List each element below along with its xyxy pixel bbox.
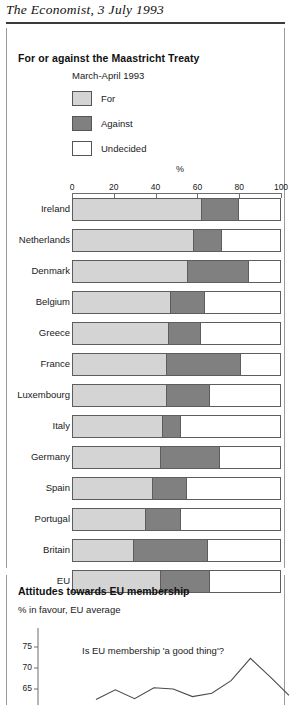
bar-segment-undecided xyxy=(181,509,280,530)
bar-track xyxy=(72,291,281,314)
bar-segment-undecided xyxy=(201,323,280,344)
bar-track xyxy=(72,539,281,562)
line-chart-y-tick-label: 65 xyxy=(8,683,32,693)
bar-segment-against xyxy=(166,354,241,375)
x-axis-tick-label: 60 xyxy=(193,182,202,192)
legend-label-for: For xyxy=(101,93,115,104)
bar-track xyxy=(72,322,281,345)
panel-title-attitudes: Attitudes towards EU membership xyxy=(18,585,190,597)
legend-period-label: March-April 1993 xyxy=(72,70,272,81)
bar-row: Britain xyxy=(0,537,291,568)
bar-segment-for xyxy=(73,354,166,375)
bar-segment-for xyxy=(73,509,145,530)
bar-category-label: Britain xyxy=(43,544,70,555)
panel-title-maastricht: For or against the Maastricht Treaty xyxy=(18,52,200,64)
bar-segment-undecided xyxy=(220,447,280,468)
bar-segment-for xyxy=(73,478,152,499)
bar-row: Denmark xyxy=(0,258,291,289)
bar-row: Greece xyxy=(0,320,291,351)
bar-segment-for xyxy=(73,230,193,251)
bar-segment-against xyxy=(201,199,238,220)
bar-segment-against xyxy=(193,230,222,251)
bar-row: Germany xyxy=(0,444,291,475)
bar-segment-against xyxy=(145,509,180,530)
bar-segment-undecided xyxy=(181,416,280,437)
bar-category-label: Italy xyxy=(53,420,70,431)
bar-row: Italy xyxy=(0,413,291,444)
bar-row: Ireland xyxy=(0,196,291,227)
bar-segment-undecided xyxy=(239,199,280,220)
bar-segment-for xyxy=(73,323,168,344)
bar-track xyxy=(72,229,281,252)
bar-segment-against xyxy=(187,261,249,282)
bar-segment-for xyxy=(73,292,170,313)
bar-track xyxy=(72,384,281,407)
bar-category-label: Denmark xyxy=(31,265,70,276)
bar-segment-undecided xyxy=(187,478,280,499)
line-chart-y-tick-label: 75 xyxy=(8,641,32,651)
header-rule xyxy=(6,22,285,24)
axis-unit-label: % xyxy=(176,164,184,174)
bar-category-label: France xyxy=(40,358,70,369)
x-axis-line xyxy=(72,193,281,194)
bar-track xyxy=(72,446,281,469)
bar-segment-against xyxy=(133,540,208,561)
bar-track xyxy=(72,260,281,283)
bar-category-label: Germany xyxy=(31,451,70,462)
bar-category-label: Spain xyxy=(46,482,70,493)
bar-track xyxy=(72,353,281,376)
legend-item-against: Against xyxy=(72,111,272,136)
legend-item-undecided: Undecided xyxy=(72,136,272,161)
bar-track xyxy=(72,198,281,221)
panel-subtitle-attitudes: % in favour, EU average xyxy=(18,604,120,615)
bar-segment-for xyxy=(73,447,160,468)
bar-segment-against xyxy=(162,416,181,437)
legend-label-undecided: Undecided xyxy=(101,143,146,154)
legend-item-for: For xyxy=(72,86,272,111)
bar-category-label: Luxembourg xyxy=(17,389,70,400)
chart-legend: March-April 1993 For Against Undecided xyxy=(72,70,272,161)
bar-segment-undecided xyxy=(210,385,280,406)
bar-segment-against xyxy=(166,385,209,406)
bar-segment-against xyxy=(168,323,201,344)
bar-segment-undecided xyxy=(205,292,280,313)
x-axis-tick-label: 20 xyxy=(109,182,118,192)
bar-category-label: Netherlands xyxy=(19,234,70,245)
bar-row: Belgium xyxy=(0,289,291,320)
bar-category-label: Portugal xyxy=(35,513,70,524)
bar-track xyxy=(72,477,281,500)
bar-segment-for xyxy=(73,199,201,220)
legend-swatch-for-icon xyxy=(72,91,92,106)
bar-row: Luxembourg xyxy=(0,382,291,413)
bar-segment-for xyxy=(73,540,133,561)
bar-segment-against xyxy=(170,292,205,313)
bar-segment-against xyxy=(160,447,220,468)
bar-track xyxy=(72,415,281,438)
bar-row: Spain xyxy=(0,475,291,506)
legend-label-against: Against xyxy=(101,118,133,129)
line-chart-y-tick-label: 70 xyxy=(8,662,32,672)
bar-segment-for xyxy=(73,416,162,437)
bar-row: Portugal xyxy=(0,506,291,537)
bar-segment-undecided xyxy=(241,354,280,375)
bar-category-label: Belgium xyxy=(36,296,70,307)
bar-segment-undecided xyxy=(249,261,280,282)
bar-segment-against xyxy=(152,478,187,499)
publication-masthead: The Economist, 3 July 1993 xyxy=(6,2,164,18)
bar-track xyxy=(72,508,281,531)
bar-segment-for xyxy=(73,261,187,282)
bar-segment-for xyxy=(73,385,166,406)
legend-swatch-undecided-icon xyxy=(72,141,92,156)
x-axis-tick-label: 40 xyxy=(151,182,160,192)
bar-category-label: Ireland xyxy=(41,203,70,214)
x-axis: 020406080100 xyxy=(72,182,281,196)
x-axis-tick-label: 80 xyxy=(234,182,243,192)
line-chart-eu-membership xyxy=(0,620,291,705)
bar-row: France xyxy=(0,351,291,382)
bar-category-label: Greece xyxy=(39,327,70,338)
bar-segment-undecided xyxy=(208,540,280,561)
legend-swatch-against-icon xyxy=(72,116,92,131)
bar-segment-undecided xyxy=(222,230,280,251)
bar-chart-body: IrelandNetherlandsDenmarkBelgiumGreeceFr… xyxy=(0,196,291,599)
x-axis-tick-label: 0 xyxy=(70,182,75,192)
